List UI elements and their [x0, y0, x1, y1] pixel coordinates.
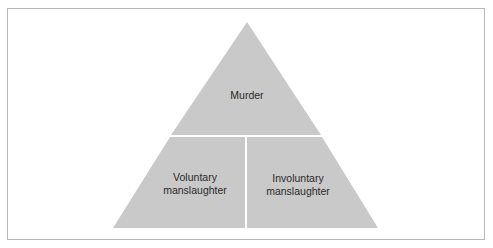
pyramid-diagram [0, 0, 493, 248]
involuntary-manslaughter-label: Involuntary manslaughter [253, 172, 343, 198]
murder-text: Murder [230, 89, 263, 101]
murder-label: Murder [207, 89, 287, 102]
voluntary-line2: manslaughter [150, 184, 240, 197]
pyramid-top-murder [171, 22, 321, 135]
involuntary-line1: Involuntary [253, 172, 343, 185]
involuntary-line2: manslaughter [253, 185, 343, 198]
voluntary-line1: Voluntary [150, 171, 240, 184]
voluntary-manslaughter-label: Voluntary manslaughter [150, 171, 240, 197]
